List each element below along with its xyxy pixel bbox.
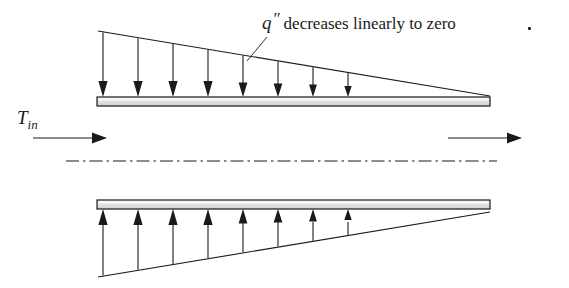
flux-arrow-up-1 (98, 209, 107, 276)
lower-plate (97, 200, 490, 209)
inlet-temperature-label: Tin (17, 108, 38, 127)
q-dot-symbol: q (262, 13, 273, 32)
double-prime-symbol: ″ (273, 10, 280, 27)
heat-flux-annotation: q″decreases linearly to zero (262, 13, 456, 32)
flux-arrow-down-6 (274, 62, 283, 98)
flux-arrow-down-1 (98, 33, 107, 98)
flux-arrow-down-8 (344, 73, 351, 97)
outlet-flow-arrow (448, 133, 522, 144)
flux-description-text: decreases linearly to zero (284, 15, 456, 32)
lower-flux-arrow-group (98, 209, 351, 276)
temperature-subscript: in (28, 117, 38, 132)
flux-arrow-down-4 (203, 50, 212, 97)
flux-arrow-down-3 (168, 44, 177, 97)
upper-flux-arrow-group (98, 33, 351, 98)
flux-arrow-up-2 (133, 209, 142, 270)
upper-plate (97, 97, 490, 106)
flux-arrow-up-6 (274, 209, 283, 247)
flux-arrow-down-7 (309, 67, 317, 97)
flux-arrow-up-3 (168, 209, 177, 264)
diagram-canvas (0, 0, 569, 288)
inlet-flow-arrow (33, 133, 107, 144)
flux-arrow-up-8 (344, 209, 351, 235)
flux-arrow-up-7 (309, 209, 317, 241)
flux-arrow-down-5 (239, 56, 248, 97)
flux-arrow-up-5 (239, 209, 248, 252)
flux-arrow-up-4 (203, 209, 212, 258)
upper-flux-triangle (98, 31, 490, 96)
lower-flux-triangle (98, 212, 490, 277)
heat-flux-channel-figure: q″decreases linearly to zero Tin (0, 0, 569, 288)
temperature-symbol: T (17, 107, 28, 128)
flux-arrow-down-2 (133, 38, 142, 97)
q-dot-accent-icon (528, 27, 531, 30)
